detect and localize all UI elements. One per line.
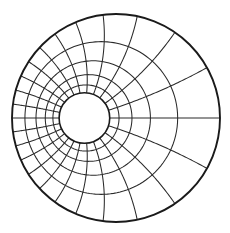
radial-arc — [16, 129, 62, 146]
inner-circle — [59, 93, 110, 144]
radial-arc — [100, 16, 137, 98]
radial-arc — [93, 15, 104, 95]
annulus-grid-figure — [0, 0, 230, 233]
radial-arc — [100, 138, 137, 220]
radial-arc — [93, 142, 104, 222]
radial-arc — [16, 90, 62, 107]
radial-arcs — [12, 15, 220, 221]
